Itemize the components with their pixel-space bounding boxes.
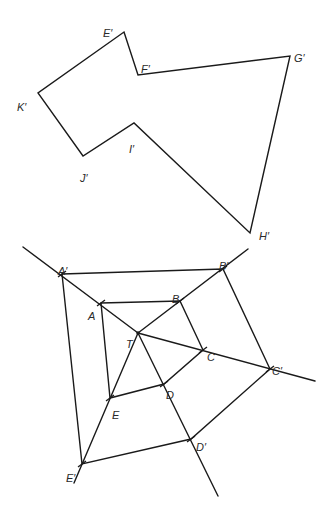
vertex-label: H′	[259, 230, 270, 242]
vertex-label: J′	[79, 172, 89, 184]
vertex-label: E′	[66, 472, 76, 484]
ray-from-T	[23, 247, 138, 333]
top-polygon	[38, 32, 290, 233]
ray-from-T	[138, 333, 315, 381]
vertex-label: B	[172, 293, 179, 305]
center-point	[136, 331, 140, 335]
vertex-label: E	[112, 409, 120, 421]
dilation-diagram: E′F′G′H′I′J′K′ABCDEA′B′C′D′E′T	[0, 0, 331, 512]
vertex-label: I′	[129, 143, 135, 155]
vertex-labels: E′F′G′H′I′J′K′ABCDEA′B′C′D′E′T	[17, 27, 306, 484]
pentagon-ABCDE-prime	[62, 269, 270, 464]
vertex-label: G′	[294, 52, 306, 64]
vertex-label: E′	[103, 27, 113, 39]
vertex-label: D′	[196, 441, 207, 453]
vertex-label: C	[207, 351, 215, 363]
vertex-tick-marks	[58, 266, 274, 467]
vertex-label: C′	[272, 365, 283, 377]
image-pentagon	[62, 269, 270, 464]
vertex-label: A	[87, 310, 95, 322]
vertex-label: B′	[219, 260, 229, 272]
vertex-label: D	[166, 389, 174, 401]
ray-from-T	[138, 333, 218, 496]
polygon-EFGHIJK-prime	[38, 32, 290, 233]
vertex-label: K′	[17, 101, 27, 113]
vertex-label: A′	[57, 265, 68, 277]
ray-from-T	[138, 249, 248, 333]
vertex-label: F′	[141, 63, 151, 75]
